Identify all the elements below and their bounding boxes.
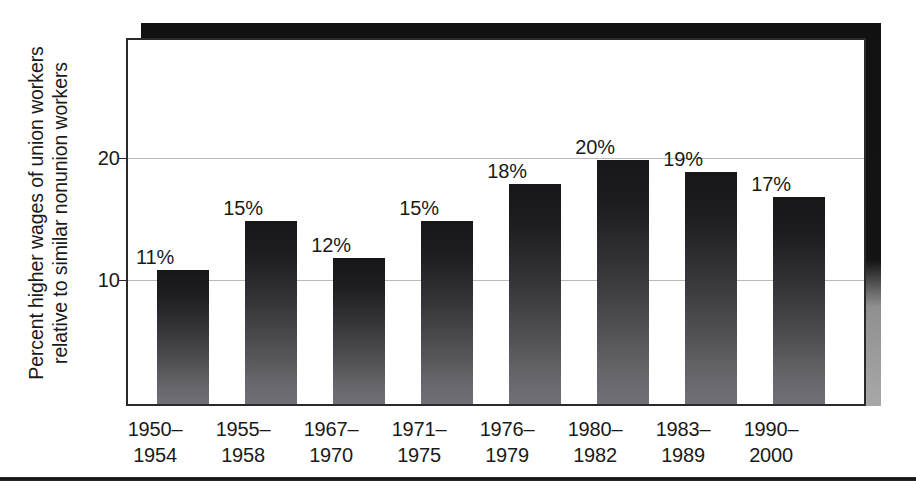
x-label-line-1: 1950– bbox=[109, 417, 201, 443]
frame-shadow-right bbox=[866, 23, 881, 406]
bar-1990-2000[interactable] bbox=[773, 197, 825, 404]
chart-figure: Percent higher wages of union workers re… bbox=[0, 0, 916, 488]
bar-1976-1979[interactable] bbox=[509, 184, 561, 404]
x-label-line-1: 1990– bbox=[725, 417, 817, 443]
x-label-1950-1954: 1950– 1954 bbox=[109, 417, 201, 468]
bar-1980-1982[interactable] bbox=[597, 160, 649, 404]
y-axis-title-line-1: Percent higher wages of union workers bbox=[25, 46, 49, 379]
page-bottom-rule bbox=[0, 477, 916, 481]
x-label-line-1: 1967– bbox=[285, 417, 377, 443]
x-label-line-1: 1976– bbox=[461, 417, 553, 443]
x-label-1971-1975: 1971– 1975 bbox=[373, 417, 465, 468]
x-label-1983-1989: 1983– 1989 bbox=[637, 417, 729, 468]
bar-1967-1970[interactable] bbox=[333, 258, 385, 404]
bar-value-1976-1979: 18% bbox=[461, 160, 553, 183]
x-label-line-1: 1955– bbox=[197, 417, 289, 443]
bar-1971-1975[interactable] bbox=[421, 221, 473, 404]
frame-shadow-top bbox=[141, 23, 881, 39]
x-label-line-2: 1975 bbox=[373, 443, 465, 469]
x-label-line-2: 1954 bbox=[109, 443, 201, 469]
x-label-1967-1970: 1967– 1970 bbox=[285, 417, 377, 468]
x-label-line-1: 1971– bbox=[373, 417, 465, 443]
y-tick-label-10: 10 bbox=[60, 269, 120, 292]
x-label-line-2: 2000 bbox=[725, 443, 817, 469]
bar-value-1967-1970: 12% bbox=[285, 234, 377, 257]
bar-1983-1989[interactable] bbox=[685, 172, 737, 404]
x-label-line-1: 1983– bbox=[637, 417, 729, 443]
y-tick-mark-10 bbox=[119, 280, 128, 281]
x-label-line-2: 1979 bbox=[461, 443, 553, 469]
bar-value-1955-1958: 15% bbox=[197, 197, 289, 220]
x-label-line-2: 1958 bbox=[197, 443, 289, 469]
bar-value-1950-1954: 11% bbox=[109, 246, 201, 269]
y-axis-title-line-2: relative to similar nonunion workers bbox=[49, 62, 73, 364]
x-label-1976-1979: 1976– 1979 bbox=[461, 417, 553, 468]
bar-value-1971-1975: 15% bbox=[373, 197, 465, 220]
bar-value-1990-2000: 17% bbox=[725, 173, 817, 196]
x-label-line-2: 1970 bbox=[285, 443, 377, 469]
bar-value-1983-1989: 19% bbox=[637, 148, 729, 171]
x-label-1980-1982: 1980– 1982 bbox=[549, 417, 641, 468]
bar-1950-1954[interactable] bbox=[157, 270, 209, 404]
x-label-1990-2000: 1990– 2000 bbox=[725, 417, 817, 468]
x-label-1955-1958: 1955– 1958 bbox=[197, 417, 289, 468]
x-label-line-2: 1982 bbox=[549, 443, 641, 469]
plot-area bbox=[126, 38, 866, 406]
y-tick-label-20: 20 bbox=[60, 147, 120, 170]
y-tick-mark-20 bbox=[119, 158, 128, 159]
bar-value-1980-1982: 20% bbox=[549, 136, 641, 159]
y-axis-title: Percent higher wages of union workers re… bbox=[16, 8, 82, 418]
bars-layer bbox=[128, 40, 864, 404]
x-label-line-1: 1980– bbox=[549, 417, 641, 443]
x-label-line-2: 1989 bbox=[637, 443, 729, 469]
